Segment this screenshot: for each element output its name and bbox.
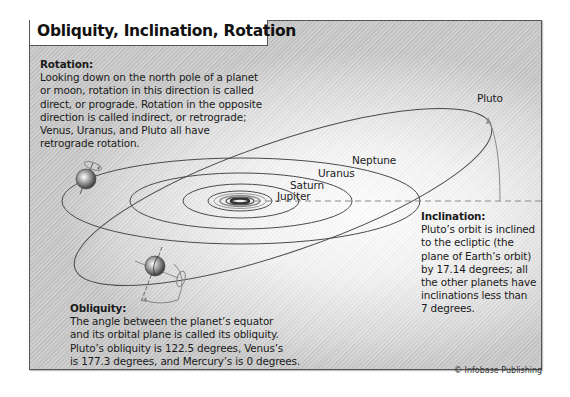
rotation-line: direction is called indirect, or retrogr… [40, 111, 262, 124]
inclination-line: by 17.14 degrees; all [421, 263, 536, 276]
inclination-description: Inclination: Pluto’s orbit is inclined t… [421, 210, 536, 316]
obliquity-planet-icon [135, 247, 187, 303]
inclination-line: 7 degrees. [421, 302, 536, 315]
rotation-line: Venus, Uranus, and Pluto all have [40, 124, 262, 137]
inclination-line: to the ecliptic (the [421, 236, 536, 249]
inclination-arrowhead [486, 117, 491, 124]
obliquity-line: is 177.3 degrees, and Mercury’s is 0 deg… [70, 355, 300, 368]
inclination-line: inclinations less than [421, 289, 536, 302]
rotation-planet-icon [76, 160, 103, 194]
jupiter-label: Jupiter [277, 190, 311, 202]
rotation-heading: Rotation: [40, 58, 262, 71]
copyright-credit: © Infobase Publishing [454, 366, 542, 375]
inclination-line: the other planets have [421, 276, 536, 289]
rotation-line: retrograde rotation. [40, 137, 262, 150]
obliquity-description: Obliquity: The angle between the planet’… [70, 302, 300, 368]
uranus-label: Uranus [318, 167, 355, 179]
inclination-arc-arrow [488, 119, 500, 201]
rotation-line: direct, or prograde. Rotation in the opp… [40, 98, 262, 111]
neptune-label: Neptune [352, 154, 396, 166]
diagram-title: Obliquity, Inclination, Rotation [37, 22, 296, 40]
inclination-line: Pluto’s orbit is inclined [421, 223, 536, 236]
inclination-line: plane of Earth’s orbit) [421, 250, 536, 263]
rotation-line: or moon, rotation in this direction is c… [40, 84, 262, 97]
rotation-description: Rotation: Looking down on the north pole… [40, 58, 262, 150]
obliquity-line: The angle between the planet’s equator [70, 315, 300, 328]
inclination-heading: Inclination: [421, 210, 536, 223]
obliquity-heading: Obliquity: [70, 302, 300, 315]
pluto-label: Pluto [477, 92, 503, 104]
obliquity-line: and its orbital plane is called its obli… [70, 328, 300, 341]
rotation-line: Looking down on the north pole of a plan… [40, 71, 262, 84]
obliquity-line: Pluto’s obliquity is 122.5 degrees, Venu… [70, 342, 300, 355]
